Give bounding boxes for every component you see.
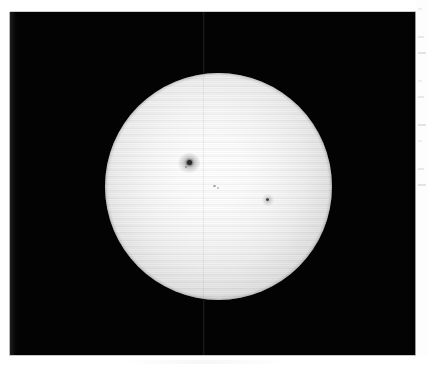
margin-tick [418, 80, 422, 82]
plate-left-wash [10, 12, 18, 356]
solar-disk [105, 73, 332, 300]
solar-limb-rim [105, 73, 332, 300]
plate-edge-top [10, 11, 416, 12]
margin-tick [418, 124, 426, 126]
margin-tick [418, 184, 426, 186]
margin-tick-marks [418, 8, 426, 208]
plate-edge-bottom [9, 355, 416, 356]
sky-field [10, 12, 416, 356]
plate-edge-left [9, 12, 10, 356]
margin-tick [418, 36, 424, 38]
margin-tick [418, 140, 422, 142]
margin-tick [418, 8, 422, 10]
plate-edge-right [415, 12, 416, 356]
margin-tick [418, 52, 426, 54]
paper-smudge [120, 360, 290, 364]
margin-tick [418, 168, 424, 170]
margin-tick [418, 96, 424, 98]
photograph-frame [0, 0, 428, 371]
